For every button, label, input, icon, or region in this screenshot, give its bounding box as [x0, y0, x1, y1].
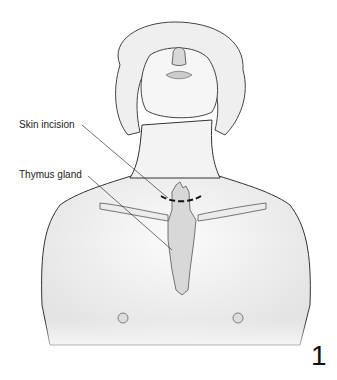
medical-illustration: [0, 0, 337, 380]
nipple-left: [118, 313, 128, 323]
neck: [130, 120, 220, 178]
nose: [172, 48, 186, 66]
nipple-right: [233, 313, 243, 323]
label-thymus-gland: Thymus gland: [19, 169, 82, 180]
figure-number: 1: [311, 340, 327, 372]
label-skin-incision: Skin incision: [19, 119, 75, 130]
